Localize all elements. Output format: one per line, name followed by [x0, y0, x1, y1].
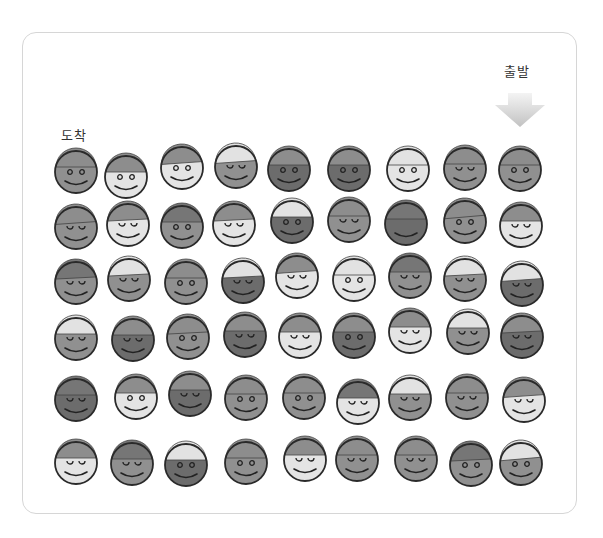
- smiley-face-icon: [104, 255, 154, 305]
- smiley-face-icon: [385, 307, 435, 357]
- smiley-face-icon: [324, 196, 374, 246]
- smiley-face-icon: [497, 260, 547, 310]
- smiley-face-icon: [280, 435, 330, 485]
- smiley-face-icon: [221, 438, 271, 488]
- smiley-face-icon: [108, 315, 158, 365]
- smiley-face-icon: [279, 373, 329, 423]
- smiley-face-icon: [446, 440, 496, 490]
- smiley-face-icon: [443, 308, 493, 358]
- smiley-face-icon: [440, 197, 490, 247]
- smiley-face-icon: [324, 145, 374, 195]
- smiley-face-icon: [267, 197, 317, 247]
- smiley-face-icon: [157, 202, 207, 252]
- smiley-face-icon: [497, 312, 547, 362]
- smiley-face-icon: [499, 376, 549, 426]
- smiley-face-icon: [165, 370, 215, 420]
- smiley-face-icon: [329, 312, 379, 362]
- smiley-face-icon: [221, 374, 271, 424]
- smiley-face-icon: [107, 439, 157, 489]
- smiley-face-icon: [51, 438, 101, 488]
- smiley-face-icon: [332, 435, 382, 485]
- smiley-face-icon: [385, 252, 435, 302]
- smiley-face-icon: [220, 311, 270, 361]
- smiley-face-icon: [101, 152, 151, 202]
- smiley-face-icon: [163, 313, 213, 363]
- smiley-face-icon: [275, 312, 325, 362]
- smiley-face-icon: [329, 255, 379, 305]
- smiley-face-icon: [51, 375, 101, 425]
- smiley-face-icon: [51, 314, 101, 364]
- smiley-face-icon: [391, 435, 441, 485]
- down-arrow-icon: [495, 93, 545, 127]
- smiley-face-icon: [383, 145, 433, 195]
- arrival-label: 도착: [61, 125, 86, 144]
- smiley-face-icon: [496, 201, 546, 251]
- smiley-face-icon: [161, 440, 211, 490]
- smiley-face-icon: [264, 145, 314, 195]
- smiley-face-icon: [272, 252, 322, 302]
- smiley-face-icon: [333, 378, 383, 428]
- smiley-face-icon: [440, 144, 490, 194]
- smiley-face-icon: [103, 200, 153, 250]
- smiley-face-icon: [442, 373, 492, 423]
- smiley-face-icon: [161, 258, 211, 308]
- smiley-face-icon: [51, 147, 101, 197]
- smiley-face-icon: [218, 257, 268, 307]
- smiley-face-icon: [495, 145, 545, 195]
- smiley-face-icon: [496, 439, 546, 489]
- smiley-face-icon: [385, 374, 435, 424]
- smiley-face-icon: [211, 142, 261, 192]
- smiley-face-icon: [440, 255, 490, 305]
- smiley-face-icon: [381, 199, 431, 249]
- start-label: 출발: [504, 61, 529, 80]
- smiley-face-icon: [111, 373, 161, 423]
- smiley-face-icon: [157, 143, 207, 193]
- smiley-face-icon: [209, 200, 259, 250]
- smiley-face-icon: [51, 258, 101, 308]
- smiley-face-icon: [51, 203, 101, 253]
